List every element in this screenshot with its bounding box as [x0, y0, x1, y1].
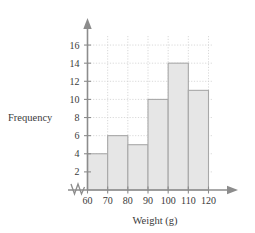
- x-axis-tick-label: 120: [201, 195, 216, 206]
- x-axis-tick-label: 110: [181, 195, 196, 206]
- histogram-bar: [168, 63, 188, 190]
- histogram-bar: [108, 136, 128, 190]
- histogram-bar: [148, 99, 168, 190]
- chart-canvas: 24681012141660708090100110120 Frequency …: [0, 0, 255, 233]
- x-axis-tick-label: 70: [103, 195, 113, 206]
- histogram-bar: [128, 145, 148, 190]
- y-axis-tick-label: 14: [70, 58, 80, 69]
- y-axis-tick-label: 12: [70, 76, 80, 87]
- axis-break-icon: [71, 184, 85, 194]
- y-axis-title: Frequency: [8, 112, 53, 123]
- x-axis-tick-label: 80: [123, 195, 133, 206]
- y-axis-tick-label: 16: [70, 40, 80, 51]
- x-axis-tick-label: 60: [83, 195, 93, 206]
- y-axis-tick-label: 10: [70, 94, 80, 105]
- x-axis-tick-label: 90: [143, 195, 153, 206]
- y-axis-tick-label: 2: [75, 166, 80, 177]
- y-axis-tick-label: 8: [75, 112, 80, 123]
- x-axis-title: Weight (g): [133, 215, 178, 227]
- bars-group: [88, 63, 209, 190]
- y-axis-arrowhead: [83, 18, 91, 29]
- x-axis-arrowhead: [227, 186, 238, 194]
- histogram-bar: [188, 90, 208, 190]
- y-axis-tick-label: 4: [75, 148, 80, 159]
- y-axis-tick-label: 6: [75, 130, 80, 141]
- histogram-chart: 24681012141660708090100110120 Frequency …: [0, 0, 255, 233]
- x-axis-tick-label: 100: [161, 195, 176, 206]
